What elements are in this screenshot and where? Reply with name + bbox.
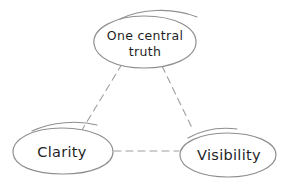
- node-clarity: Clarity: [13, 122, 113, 174]
- node-label-top-line2: truth: [129, 44, 161, 59]
- edge-top-to-clarity: [82, 64, 122, 130]
- node-visibility: Visibility: [180, 128, 276, 177]
- edge-top-to-visibility: [162, 66, 193, 130]
- concept-diagram: One central truth Clarity Visibility: [0, 0, 286, 186]
- node-label-visibility: Visibility: [197, 147, 261, 163]
- node-label-clarity: Clarity: [37, 144, 87, 160]
- node-label-top-line1: One central: [107, 28, 183, 43]
- diagram-canvas: One central truth Clarity Visibility: [0, 0, 286, 186]
- node-one-central-truth: One central truth: [94, 10, 197, 68]
